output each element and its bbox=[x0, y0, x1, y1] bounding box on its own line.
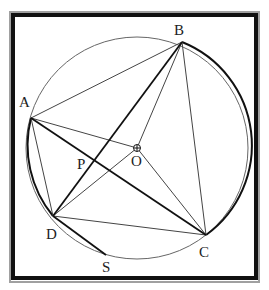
segment-bc bbox=[182, 42, 206, 235]
segment-ao bbox=[31, 118, 137, 148]
label-a: A bbox=[19, 94, 30, 110]
segment-ab bbox=[31, 42, 182, 118]
label-c: C bbox=[199, 244, 209, 260]
segment-oc bbox=[137, 148, 206, 235]
label-s: S bbox=[102, 259, 110, 275]
label-d: D bbox=[46, 226, 57, 242]
label-b: B bbox=[174, 22, 184, 38]
label-p: P bbox=[77, 156, 85, 172]
center-marker-icon bbox=[134, 145, 141, 152]
diagonal-bd bbox=[53, 42, 182, 216]
label-o: O bbox=[131, 153, 142, 169]
diagonal-ac bbox=[31, 118, 206, 235]
geometry-diagram: A B C D O P S bbox=[0, 0, 269, 290]
